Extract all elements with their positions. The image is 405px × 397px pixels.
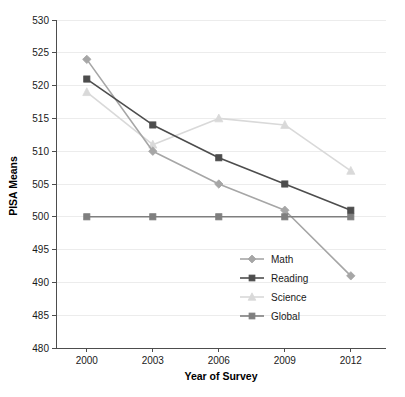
y-tick-label: 495 [32, 244, 49, 255]
series-global [84, 214, 354, 220]
marker-square [348, 207, 354, 213]
legend-label-science: Science [271, 292, 307, 303]
marker-square [84, 76, 90, 82]
x-tick-label: 2003 [142, 355, 165, 366]
y-tick-label: 490 [32, 277, 49, 288]
marker-square [150, 214, 156, 220]
marker-diamond [215, 180, 223, 188]
legend-label-global: Global [271, 311, 300, 322]
x-tick-label: 2009 [274, 355, 297, 366]
marker-square [216, 155, 222, 161]
chart-legend: MathReadingScienceGlobal [240, 254, 308, 322]
marker-triangle [347, 166, 355, 174]
marker-square [249, 275, 255, 281]
y-tick-label: 505 [32, 179, 49, 190]
marker-triangle [83, 88, 91, 96]
x-tick-label: 2000 [76, 355, 99, 366]
x-tick-label: 2012 [340, 355, 363, 366]
x-axis-title: Year of Survey [185, 370, 258, 382]
gridlines-group [56, 20, 386, 315]
y-tick-label: 515 [32, 113, 49, 124]
marker-square [348, 214, 354, 220]
y-tick-label: 530 [32, 15, 49, 26]
series-math [83, 55, 355, 280]
y-tick-label: 510 [32, 146, 49, 157]
y-tick-label: 525 [32, 47, 49, 58]
legend-item-science[interactable]: Science [240, 292, 307, 303]
chart-canvas: 480485490495500505510515520525530 200020… [0, 0, 405, 397]
y-tick-labels-group: 480485490495500505510515520525530 [32, 15, 56, 354]
pisa-means-line-chart: 480485490495500505510515520525530 200020… [0, 0, 405, 397]
y-tick-label: 520 [32, 80, 49, 91]
series-science [83, 88, 355, 175]
marker-square [282, 214, 288, 220]
series-line-reading [87, 79, 351, 210]
legend-label-math: Math [271, 254, 293, 265]
y-tick-label: 500 [32, 211, 49, 222]
marker-square [249, 313, 255, 319]
legend-item-global[interactable]: Global [240, 311, 300, 322]
legend-label-reading: Reading [271, 273, 308, 284]
legend-item-math[interactable]: Math [240, 254, 293, 265]
x-tick-labels-group: 20002003200620092012 [76, 348, 363, 366]
marker-square [216, 214, 222, 220]
y-axis-title: PISA Means [7, 156, 19, 216]
y-tick-label: 485 [32, 310, 49, 321]
y-tick-label: 480 [32, 343, 49, 354]
marker-square [84, 214, 90, 220]
series-line-math [87, 59, 351, 275]
x-tick-label: 2006 [208, 355, 231, 366]
marker-diamond [248, 255, 256, 263]
data-series-group [83, 55, 355, 280]
marker-square [282, 181, 288, 187]
marker-square [150, 122, 156, 128]
